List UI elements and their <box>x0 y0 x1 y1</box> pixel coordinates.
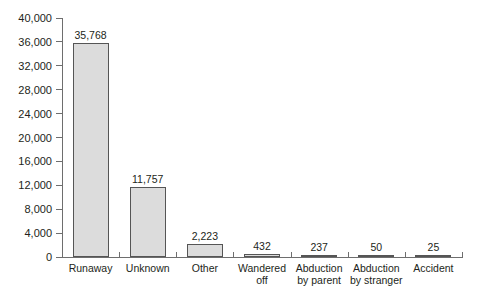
x-axis-category-label: Accident <box>405 262 462 274</box>
x-axis-tick <box>62 252 63 258</box>
x-axis-tick <box>233 252 234 258</box>
y-axis-tick <box>56 41 62 42</box>
bar <box>244 254 280 257</box>
bar-value-label: 35,768 <box>51 30 131 41</box>
y-axis-tick <box>56 209 62 210</box>
x-axis-tick <box>462 252 463 258</box>
y-axis-tick <box>56 65 62 66</box>
x-axis-category-label-line: by parent <box>291 274 348 286</box>
y-axis-tick <box>56 89 62 90</box>
bar <box>73 43 109 257</box>
y-axis-tick-label: 28,000 <box>18 85 52 96</box>
x-axis-category-label-line: Abduction <box>291 262 348 274</box>
x-axis-category-label: Abductionby stranger <box>348 262 405 287</box>
y-axis-tick-label: 36,000 <box>18 37 52 48</box>
y-axis-tick-label: 40,000 <box>18 13 52 24</box>
x-axis-category-label-line: Accident <box>405 262 462 274</box>
x-axis-category-label-line: Runaway <box>62 262 119 274</box>
y-axis-tick-label: 16,000 <box>18 156 52 167</box>
x-axis-tick <box>348 252 349 258</box>
x-axis-category-label: Unknown <box>119 262 176 274</box>
y-axis-tick-label: 0 <box>46 252 52 263</box>
y-axis-tick <box>56 113 62 114</box>
x-axis-tick <box>176 252 177 258</box>
x-axis-line <box>62 257 462 258</box>
bar <box>358 255 394 257</box>
bar-value-label: 11,757 <box>108 174 188 185</box>
x-axis-category-label: Runaway <box>62 262 119 274</box>
y-axis-tick-label: 8,000 <box>24 204 52 215</box>
bar <box>130 187 166 257</box>
x-axis-tick <box>405 252 406 258</box>
bar <box>415 255 451 257</box>
x-axis-category-label-line: Other <box>176 262 233 274</box>
x-axis-category-label-line: by stranger <box>348 274 405 286</box>
y-axis-tick-label: 32,000 <box>18 61 52 72</box>
y-axis-tick <box>56 161 62 162</box>
x-axis-category-label: Wanderedoff <box>233 262 290 287</box>
y-axis-tick <box>56 137 62 138</box>
y-axis-tick-label: 4,000 <box>24 228 52 239</box>
x-axis-category-label-line: off <box>233 274 290 286</box>
x-axis-category-label-line: Unknown <box>119 262 176 274</box>
y-axis-tick-label: 20,000 <box>18 133 52 144</box>
x-axis-category-label: Abductionby parent <box>291 262 348 287</box>
x-axis-tick <box>291 252 292 258</box>
chart-title <box>14 0 444 1</box>
y-axis-line <box>62 18 63 258</box>
x-axis-category-label-line: Abduction <box>348 262 405 274</box>
y-axis-tick <box>56 18 62 19</box>
bar-value-label: 25 <box>393 242 473 253</box>
y-axis-tick-label: 12,000 <box>18 180 52 191</box>
y-axis-tick <box>56 185 62 186</box>
y-axis-tick-label: 24,000 <box>18 109 52 120</box>
x-axis-tick <box>119 252 120 258</box>
bar <box>301 255 337 257</box>
bar-value-label: 2,223 <box>165 231 245 242</box>
y-axis-tick <box>56 233 62 234</box>
bar-chart-figure: 04,0008,00012,00016,00020,00024,00028,00… <box>0 0 480 299</box>
x-axis-category-label: Other <box>176 262 233 274</box>
x-axis-category-label-line: Wandered <box>233 262 290 274</box>
bar <box>187 244 223 257</box>
